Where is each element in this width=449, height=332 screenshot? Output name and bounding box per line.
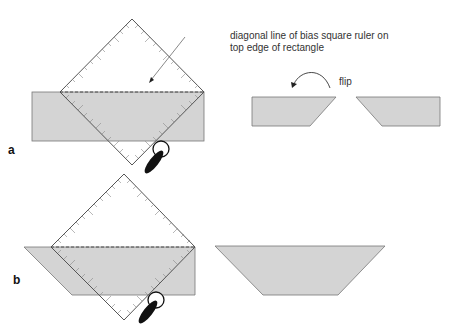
annotation-label: diagonal line of bias square ruler on to… (230, 30, 388, 54)
flip-arrow-icon (294, 73, 330, 89)
rotary-cutter-icon (136, 292, 164, 326)
panel-a-figure (32, 19, 204, 176)
panel-label-b: b (13, 273, 20, 287)
annotation-line-1: diagonal line of bias square ruler on (230, 30, 388, 42)
flip-label: flip (339, 76, 352, 88)
panel-label-a: a (8, 143, 15, 157)
cut-piece-left (252, 97, 336, 126)
cut-trapezoid (215, 246, 385, 295)
fabric-rectangle (32, 92, 204, 141)
cut-piece-right (356, 97, 440, 126)
panel-b-figure (24, 174, 195, 326)
fabric-parallelogram (24, 247, 195, 295)
annotation-line-2: top edge of rectangle (230, 42, 388, 54)
rotary-cutter-icon (142, 141, 169, 176)
